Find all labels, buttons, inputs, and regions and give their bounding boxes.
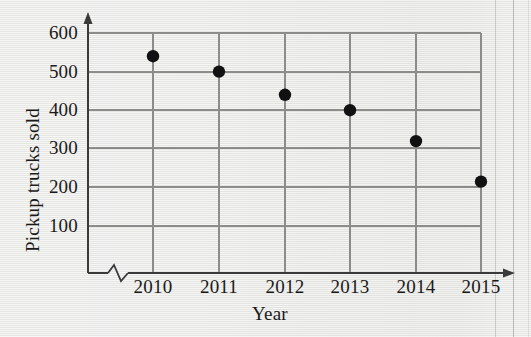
y-tick-label-600: 600 [32,22,78,44]
x-axis-title: Year [252,303,288,325]
data-point-2015 [475,175,487,187]
x-tick-label-2012: 2012 [255,276,315,298]
data-point-2010 [147,50,159,62]
x-tick-label-2015: 2015 [451,276,511,298]
y-tick-label-500: 500 [32,61,78,83]
vertical-gridlines [153,33,481,273]
data-point-2014 [410,135,422,147]
x-tick-label-2013: 2013 [320,276,380,298]
data-point-2011 [213,65,225,77]
x-tick-label-2010: 2010 [123,276,183,298]
data-points [147,50,487,188]
y-axis-title: Pickup trucks sold [22,108,44,252]
y-axis [84,12,93,273]
x-tick-label-2014: 2014 [386,276,446,298]
scatter-chart: 600 500 400 300 200 100 2010 2011 2012 2… [0,0,531,337]
data-point-2013 [344,104,356,116]
data-point-2012 [279,89,291,101]
y-axis-arrowhead [84,12,93,24]
x-tick-label-2011: 2011 [189,276,249,298]
